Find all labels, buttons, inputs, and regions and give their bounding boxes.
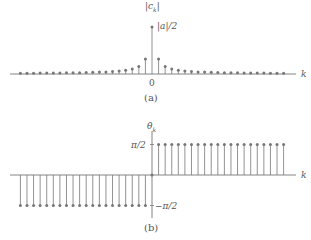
panel-b-xlabel: k <box>301 170 306 180</box>
panel-a-caption: (a) <box>144 92 158 103</box>
panel-a-origin-label: 0 <box>149 78 155 88</box>
panel-b-pos-label: π/2 <box>131 140 146 150</box>
panel-a-ylabel: |ck| <box>145 1 160 13</box>
panel-a-peak-label: |a|/2 <box>157 21 177 31</box>
panel-b-neg-label: −π/2 <box>155 201 177 211</box>
panel-b-ylabel: θk <box>147 121 156 133</box>
panel-b-plot <box>10 131 296 218</box>
panel-a-plot <box>10 26 296 75</box>
panel-a-xlabel: k <box>301 69 306 79</box>
panel-b-caption: (b) <box>144 222 158 233</box>
